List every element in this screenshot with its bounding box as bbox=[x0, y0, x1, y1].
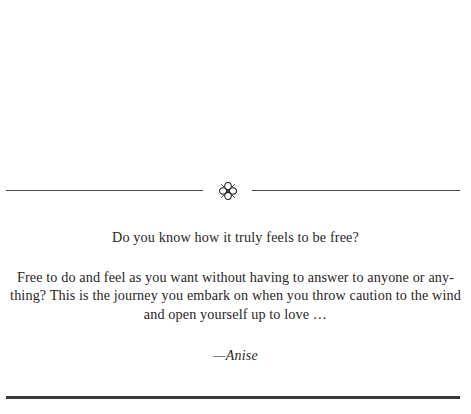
epigraph-body-line: and open yourself up to love … bbox=[0, 305, 471, 323]
book-page: Do you know how it truly feels to be fre… bbox=[0, 0, 471, 414]
epigraph-body-line: Free to do and feel as you want without … bbox=[0, 268, 471, 286]
epigraph-body: Free to do and feel as you want without … bbox=[0, 268, 471, 323]
epigraph-lead-line: Do you know how it truly feels to be fre… bbox=[0, 228, 471, 246]
epigraph-body-line: thing? This is the journey you embark on… bbox=[0, 286, 471, 304]
epigraph-lead: Do you know how it truly feels to be fre… bbox=[0, 228, 471, 246]
floral-rosette-ornament bbox=[203, 178, 253, 204]
bottom-rule bbox=[6, 396, 460, 399]
epigraph-attribution: —Anise bbox=[0, 348, 471, 364]
attribution-text: —Anise bbox=[0, 348, 471, 364]
divider-rule-right bbox=[252, 190, 460, 191]
top-divider bbox=[0, 178, 471, 204]
divider-rule-left bbox=[6, 190, 203, 191]
